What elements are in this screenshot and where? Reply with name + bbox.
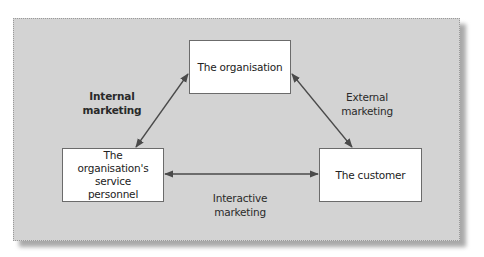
node-customer-label: The customer <box>336 169 406 182</box>
external-marketing-label: External marketing <box>327 90 407 118</box>
node-customer: The customer <box>319 148 422 202</box>
node-organisation: The organisation <box>189 40 291 94</box>
internal-marketing-label: Internal marketing <box>72 89 152 117</box>
interactive-marketing-label: Interactive marketing <box>200 191 280 219</box>
node-organisation-label: The organisation <box>198 61 283 74</box>
node-service-personnel-label: The organisation's service personnel <box>69 149 157 201</box>
node-service-personnel: The organisation's service personnel <box>62 148 164 202</box>
